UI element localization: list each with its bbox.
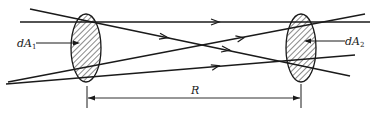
diagram-canvas: dA1 dA2 R bbox=[0, 0, 370, 115]
area-2-label: dA2 bbox=[345, 35, 364, 49]
area-1-ellipse bbox=[71, 14, 101, 82]
area-1-label: dA1 bbox=[17, 37, 36, 51]
dimension-arrow-right-icon bbox=[293, 96, 300, 101]
diagram-svg: dA1 dA2 R bbox=[0, 0, 370, 115]
distance-label: R bbox=[190, 84, 199, 97]
dimension-arrow-left-icon bbox=[88, 96, 95, 101]
